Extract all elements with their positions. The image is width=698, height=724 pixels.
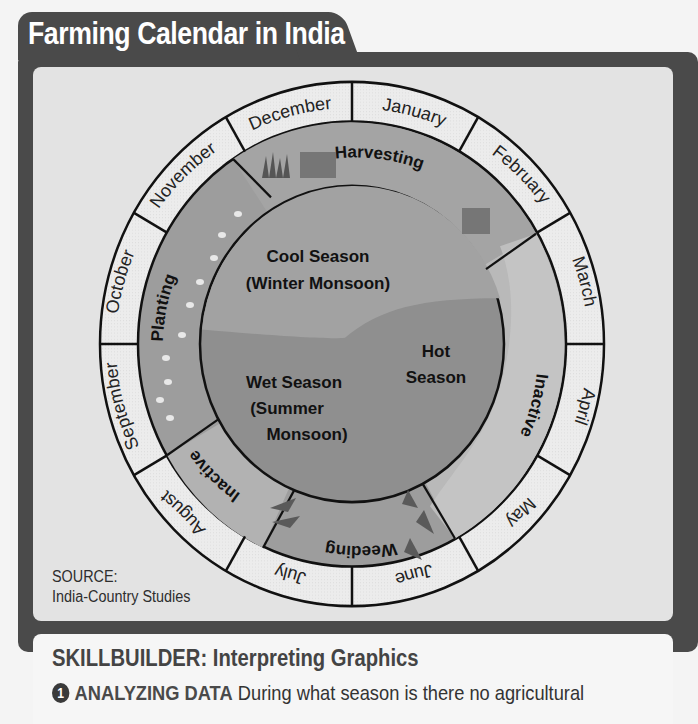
season-hot-line1: Hot <box>422 342 451 361</box>
skillbuilder-title: SKILLBUILDER: Interpreting Graphics <box>52 645 419 672</box>
season-wet-line3: Monsoon) <box>266 425 347 444</box>
season-cool-line2: (Winter Monsoon) <box>246 274 390 293</box>
question-number-badge: 1 <box>52 683 69 703</box>
season-cool-line1: Cool Season <box>267 247 370 266</box>
source-label: SOURCE: <box>52 567 190 587</box>
source-credit: SOURCE: India-Country Studies <box>52 567 190 607</box>
season-hot-line2: Season <box>406 368 466 387</box>
source-value: India-Country Studies <box>52 587 190 607</box>
question-text: During what season is there no agricultu… <box>238 681 584 704</box>
season-wet-line2: (Summer <box>250 399 324 418</box>
question-lead: ANALYZING DATA <box>75 681 233 704</box>
season-wet-line1: Wet Season <box>246 373 342 392</box>
question-1: 1ANALYZING DATADuring what season is the… <box>52 681 584 705</box>
